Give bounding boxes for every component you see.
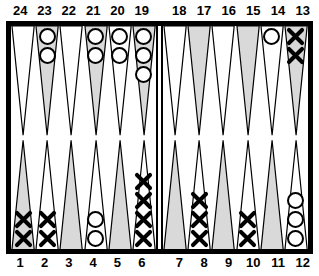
- point-17[interactable]: [187, 26, 211, 138]
- quadrant-bottom-left: [11, 138, 156, 250]
- bottom-left-numbers: 1 2 3 4 5 6: [8, 254, 154, 274]
- top-left-numbers: 24 23 22 21 20 19: [8, 2, 154, 22]
- board-half-left: [11, 26, 156, 249]
- point-number-16: 16: [216, 2, 241, 22]
- point-18[interactable]: [163, 26, 187, 138]
- point-1[interactable]: [11, 138, 35, 250]
- point-number-7: 7: [167, 254, 192, 274]
- point-9[interactable]: [211, 138, 235, 250]
- point-11[interactable]: [260, 138, 284, 250]
- board-surface: [11, 26, 308, 249]
- point-triangle-24: [11, 26, 35, 138]
- point-number-13: 13: [290, 2, 315, 22]
- point-number-24: 24: [8, 2, 32, 22]
- point-number-12: 12: [290, 254, 315, 274]
- point-triangle-21: [84, 26, 108, 138]
- point-triangle-3: [59, 138, 83, 250]
- point-triangle-18: [163, 26, 187, 138]
- point-5[interactable]: [108, 138, 132, 250]
- point-12[interactable]: [284, 138, 308, 250]
- point-10[interactable]: [236, 138, 260, 250]
- point-number-6: 6: [130, 254, 154, 274]
- point-triangle-11: [260, 138, 284, 250]
- point-number-17: 17: [192, 2, 217, 22]
- point-triangle-5: [108, 138, 132, 250]
- board-half-right: [163, 26, 308, 249]
- point-triangle-2: [35, 138, 59, 250]
- point-14[interactable]: [260, 26, 284, 138]
- point-number-11: 11: [266, 254, 291, 274]
- point-number-4: 4: [81, 254, 105, 274]
- point-number-21: 21: [81, 2, 105, 22]
- point-triangle-8: [187, 138, 211, 250]
- point-7[interactable]: [163, 138, 187, 250]
- bottom-point-numbers: 1 2 3 4 5 6 7 8 9 10 11 12: [0, 254, 319, 274]
- point-15[interactable]: [236, 26, 260, 138]
- point-number-10: 10: [241, 254, 266, 274]
- point-triangle-15: [236, 26, 260, 138]
- point-triangle-16: [211, 26, 235, 138]
- point-24[interactable]: [11, 26, 35, 138]
- quadrant-top-right: [163, 26, 308, 138]
- point-23[interactable]: [35, 26, 59, 138]
- point-number-8: 8: [192, 254, 217, 274]
- point-19[interactable]: [132, 26, 156, 138]
- point-number-5: 5: [105, 254, 129, 274]
- point-number-19: 19: [130, 2, 154, 22]
- point-number-23: 23: [32, 2, 56, 22]
- point-triangle-1: [11, 138, 35, 250]
- point-triangle-7: [163, 138, 187, 250]
- point-4[interactable]: [84, 138, 108, 250]
- point-number-18: 18: [167, 2, 192, 22]
- bottom-right-numbers: 7 8 9 10 11 12: [167, 254, 315, 274]
- point-triangle-12: [284, 138, 308, 250]
- point-triangle-9: [211, 138, 235, 250]
- quadrant-bottom-right: [163, 138, 308, 250]
- point-triangle-4: [84, 138, 108, 250]
- point-triangle-19: [132, 26, 156, 138]
- point-triangle-23: [35, 26, 59, 138]
- point-triangle-22: [59, 26, 83, 138]
- point-number-15: 15: [241, 2, 266, 22]
- point-13[interactable]: [284, 26, 308, 138]
- quadrant-top-left: [11, 26, 156, 138]
- board-bar[interactable]: [156, 26, 163, 249]
- point-16[interactable]: [211, 26, 235, 138]
- point-triangle-13: [284, 26, 308, 138]
- point-number-1: 1: [8, 254, 32, 274]
- point-triangle-6: [132, 138, 156, 250]
- point-number-2: 2: [32, 254, 56, 274]
- point-21[interactable]: [84, 26, 108, 138]
- point-20[interactable]: [108, 26, 132, 138]
- point-2[interactable]: [35, 138, 59, 250]
- point-number-14: 14: [266, 2, 291, 22]
- point-number-22: 22: [57, 2, 81, 22]
- point-triangle-10: [236, 138, 260, 250]
- point-triangle-17: [187, 26, 211, 138]
- point-number-3: 3: [57, 254, 81, 274]
- point-22[interactable]: [59, 26, 83, 138]
- top-point-numbers: 24 23 22 21 20 19 18 17 16 15 14 13: [0, 2, 319, 22]
- point-3[interactable]: [59, 138, 83, 250]
- point-8[interactable]: [187, 138, 211, 250]
- point-triangle-14: [260, 26, 284, 138]
- point-number-9: 9: [216, 254, 241, 274]
- top-right-numbers: 18 17 16 15 14 13: [167, 2, 315, 22]
- board-frame: [6, 21, 313, 254]
- point-triangle-20: [108, 26, 132, 138]
- point-number-20: 20: [105, 2, 129, 22]
- backgammon-board: 24 23 22 21 20 19 18 17 16 15 14 13: [0, 0, 319, 276]
- point-6[interactable]: [132, 138, 156, 250]
